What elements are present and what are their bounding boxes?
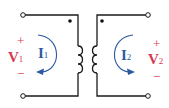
secondary-bottom-wire — [97, 73, 146, 96]
primary-circuit — [25, 15, 83, 96]
v2-label: V2 — [148, 52, 163, 67]
v1-label: V1 — [8, 50, 23, 65]
secondary-top-wire — [97, 15, 146, 46]
primary-coil — [78, 46, 83, 73]
primary-polarity-dot — [68, 19, 72, 23]
v1-minus-sign: − — [17, 67, 24, 80]
i1-label: I1 — [38, 46, 48, 61]
v1-plus-sign: + — [17, 34, 24, 47]
primary-bottom-wire — [25, 73, 78, 96]
circuit-diagram — [0, 0, 169, 108]
v2-plus-sign: + — [153, 37, 160, 50]
current-arrowhead-i1-icon — [36, 69, 44, 76]
secondary-circuit — [93, 15, 147, 96]
current-arrowhead-i2-icon — [127, 69, 135, 76]
primary-bottom-terminal — [21, 94, 26, 99]
secondary-bottom-terminal — [146, 94, 151, 99]
secondary-polarity-dot — [100, 19, 104, 23]
i2-label: I2 — [121, 48, 131, 63]
primary-top-terminal — [21, 13, 26, 18]
secondary-coil — [93, 46, 98, 73]
secondary-top-terminal — [146, 13, 151, 18]
v2-minus-sign: − — [153, 70, 160, 83]
